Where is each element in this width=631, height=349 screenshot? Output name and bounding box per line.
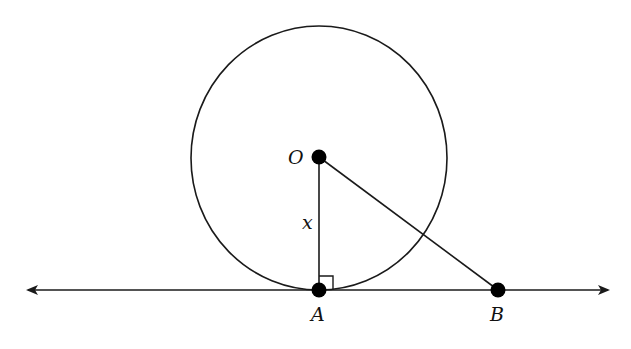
point-b bbox=[491, 283, 506, 298]
label-b: B bbox=[489, 303, 504, 325]
tangent-circle-diagram: O x A B bbox=[0, 0, 631, 349]
label-o: O bbox=[288, 146, 304, 168]
point-a bbox=[312, 283, 327, 298]
label-x: x bbox=[302, 211, 313, 233]
label-a: A bbox=[309, 303, 325, 325]
point-o bbox=[312, 150, 327, 165]
segment-ob bbox=[319, 157, 498, 290]
